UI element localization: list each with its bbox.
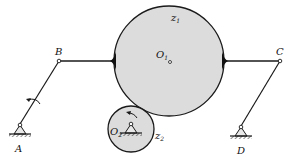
weld-right bbox=[222, 52, 228, 70]
label-b: B bbox=[54, 46, 62, 57]
label-z2: z2 bbox=[154, 130, 164, 142]
label-c: C bbox=[276, 46, 284, 57]
ground-pivot-d bbox=[230, 125, 252, 139]
joint-c bbox=[278, 59, 282, 63]
link-ab bbox=[20, 61, 59, 124]
joint-b bbox=[57, 59, 61, 63]
label-d: D bbox=[236, 145, 245, 156]
mechanism-diagram: B C A D O1 z1 O2 z2 bbox=[0, 0, 287, 162]
weld-left bbox=[110, 52, 116, 70]
link-cd bbox=[241, 61, 280, 126]
ground-pivot-a bbox=[9, 123, 31, 137]
center-o1 bbox=[169, 61, 172, 64]
label-a: A bbox=[14, 143, 22, 154]
